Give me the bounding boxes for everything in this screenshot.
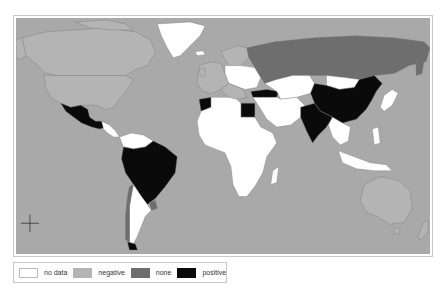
legend-item-none: none (131, 268, 172, 278)
world-map-svg (16, 18, 430, 254)
region-australia (360, 177, 412, 225)
region-canada (22, 28, 155, 76)
region-tasmania (394, 228, 400, 234)
region-russia (247, 36, 430, 84)
legend-label: positive (202, 269, 226, 276)
region-new-zealand (418, 220, 428, 240)
legend-item-positive: positive (177, 268, 226, 278)
compass-icon (21, 214, 39, 232)
legend-item-negative: negative (73, 268, 124, 278)
region-scandinavia (221, 46, 249, 66)
region-tierra-del-fuego (127, 242, 137, 250)
region-philippines (372, 127, 380, 145)
region-usa (44, 76, 134, 110)
region-iceland (195, 51, 205, 56)
region-kamchatka (416, 60, 424, 76)
world-map-frame (13, 15, 433, 257)
legend-swatch-negative (73, 268, 92, 278)
region-madagascar (271, 167, 279, 185)
legend-label: negative (98, 269, 124, 276)
world-map (16, 18, 430, 254)
legend-label: no data (44, 269, 67, 276)
legend-item-no-data: no data (19, 268, 67, 278)
region-middle-east (253, 97, 305, 127)
map-legend: no data negative none positive (13, 262, 227, 283)
region-egypt (241, 103, 255, 117)
legend-swatch-no-data (19, 268, 38, 278)
legend-label: none (156, 269, 172, 276)
region-mexico (61, 103, 106, 129)
region-indonesia (338, 151, 392, 171)
region-arctic-islands (76, 20, 134, 30)
legend-swatch-positive (177, 268, 196, 278)
region-central-america (102, 121, 120, 137)
legend-swatch-none (131, 268, 150, 278)
region-japan (380, 89, 398, 111)
